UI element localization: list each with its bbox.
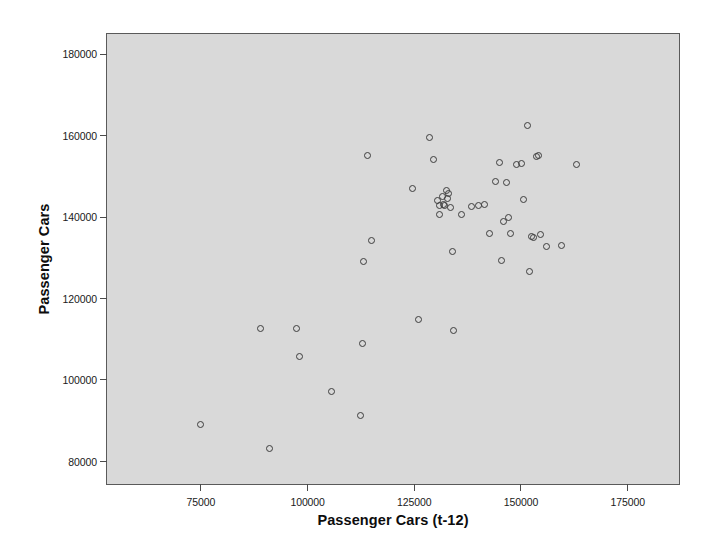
scatter-point [458, 211, 465, 218]
scatter-point [449, 248, 456, 255]
scatter-point [409, 185, 416, 192]
x-axis-tick-label: 175000 [611, 496, 645, 508]
x-axis-title-text: Passenger Cars (t-12) [317, 512, 468, 528]
scatter-point [436, 211, 443, 218]
scatter-point [364, 152, 371, 159]
y-axis-tick [100, 217, 107, 218]
y-axis-title-text: Passenger Cars [36, 203, 52, 314]
scatter-point [503, 179, 510, 186]
scatter-point [415, 316, 422, 323]
plot-frame: 8000010000012000014000016000018000075000… [106, 33, 680, 485]
scatter-point [518, 160, 525, 167]
y-axis-tick-label: 100000 [63, 374, 97, 386]
scatter-point [524, 122, 531, 129]
x-axis-tick-label: 75000 [187, 496, 216, 508]
scatter-point [426, 134, 433, 141]
x-axis-tick-label: 125000 [397, 496, 431, 508]
y-axis-tick [100, 379, 107, 380]
scatter-point [486, 230, 493, 237]
scatter-point [496, 159, 503, 166]
scatter-point [296, 353, 303, 360]
scatter-point [444, 195, 451, 202]
x-axis-tick-label: 150000 [504, 496, 538, 508]
y-axis-title: Passenger Cars [34, 33, 54, 485]
plot-data-area [107, 34, 679, 484]
scatter-point [447, 204, 454, 211]
scatter-point [266, 445, 273, 452]
scatter-point [492, 178, 499, 185]
scatter-point [505, 214, 512, 221]
scatter-point [481, 201, 488, 208]
x-axis-tick [307, 484, 308, 491]
scatter-point [368, 237, 375, 244]
y-axis-tick [100, 135, 107, 136]
y-axis-tick [100, 54, 107, 55]
scatter-point [257, 325, 264, 332]
y-axis-tick-label: 140000 [63, 211, 97, 223]
scatter-point [359, 340, 366, 347]
scatter-point [360, 258, 367, 265]
y-axis-tick [100, 298, 107, 299]
scatter-point [498, 257, 505, 264]
scatter-point [328, 388, 335, 395]
scatter-point [430, 156, 437, 163]
x-axis-tick [200, 484, 201, 491]
scatter-point [357, 412, 364, 419]
scatter-point [558, 242, 565, 249]
y-axis-tick-label: 80000 [68, 456, 97, 468]
scatter-point [197, 421, 204, 428]
x-axis-tick [414, 484, 415, 491]
x-axis-tick [627, 484, 628, 491]
scatter-point [535, 152, 542, 159]
scatter-point [537, 231, 544, 238]
y-axis-tick-label: 180000 [63, 48, 97, 60]
scatter-point [450, 327, 457, 334]
scatter-point [507, 230, 514, 237]
y-axis-tick [100, 461, 107, 462]
x-axis-tick [520, 484, 521, 491]
scatter-point [573, 161, 580, 168]
scatter-point [520, 196, 527, 203]
scatter-point [543, 243, 550, 250]
scatter-plot-figure: 8000010000012000014000016000018000075000… [0, 0, 717, 560]
scatter-point [293, 325, 300, 332]
scatter-point [526, 268, 533, 275]
y-axis-tick-label: 160000 [63, 130, 97, 142]
x-axis-tick-label: 100000 [290, 496, 324, 508]
x-axis-title: Passenger Cars (t-12) [106, 512, 680, 528]
y-axis-tick-label: 120000 [63, 293, 97, 305]
